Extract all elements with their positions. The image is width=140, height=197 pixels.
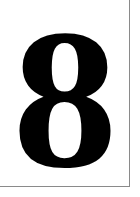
numeral-display: 8 xyxy=(0,0,129,186)
number-card: 8 xyxy=(0,0,130,187)
numeral-text: 8 xyxy=(12,0,117,197)
